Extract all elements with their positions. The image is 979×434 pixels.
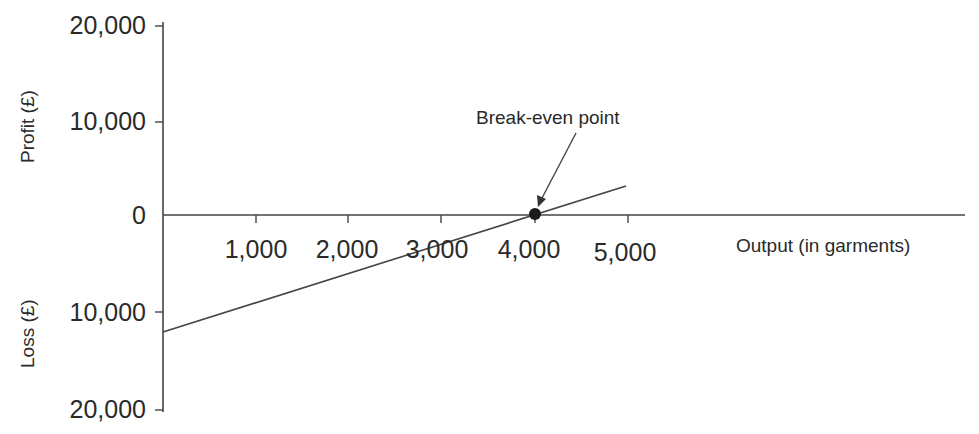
x-tick-label: 1,000 <box>225 237 288 262</box>
x-axis-label: Output (in garments) <box>736 235 910 257</box>
break-even-chart: 20,000 10,000 0 10,000 20,000 Profit (£)… <box>0 0 979 434</box>
y-tick-label: 20,000 <box>70 397 146 422</box>
chart-plot-area <box>0 0 979 434</box>
y-tick-label: 20,000 <box>70 13 146 38</box>
annotation-arrow-line <box>541 133 576 200</box>
y-tick-label: 10,000 <box>70 300 146 325</box>
break-even-marker <box>529 208 541 220</box>
annotation-arrowhead-icon <box>537 195 546 207</box>
y-tick-label: 10,000 <box>70 109 146 134</box>
y-axis-label-profit: Profit (£) <box>17 90 39 163</box>
x-tick-label: 2,000 <box>316 237 379 262</box>
x-tick-label: 4,000 <box>498 237 561 262</box>
y-tick-label: 0 <box>132 203 146 228</box>
x-tick-label: 5,000 <box>594 240 657 265</box>
break-even-annotation: Break-even point <box>476 107 620 129</box>
x-tick-label: 3,000 <box>406 237 469 262</box>
y-axis-label-loss: Loss (£) <box>17 299 39 368</box>
